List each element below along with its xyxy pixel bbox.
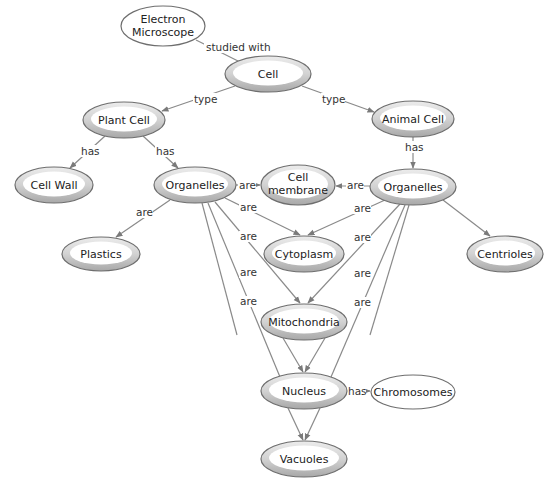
node-animal-cell[interactable]: Animal Cell (372, 101, 454, 137)
edge-mito-nucleus-l (283, 338, 303, 372)
node-mitochondria[interactable]: Mitochondria (261, 304, 347, 340)
label-are-mito-plant: are (240, 230, 257, 242)
label-are-membrane-animal: are (347, 179, 364, 191)
node-label: Cell (258, 68, 279, 81)
node-cell-membrane[interactable]: Cell membrane (261, 165, 335, 205)
edge-orga-centrioles (443, 200, 490, 236)
node-plastics[interactable]: Plastics (62, 237, 140, 271)
label-studied-with: studied with (206, 41, 271, 53)
node-cell-wall[interactable]: Cell Wall (15, 167, 93, 203)
edge-orga-cytoplasm (308, 200, 385, 235)
node-label: Organelles (165, 179, 224, 192)
node-label: Cell Wall (30, 179, 77, 192)
label-has-chromosomes: has (348, 385, 367, 397)
label-type-animal: type (322, 93, 345, 105)
label-are-mito-animal: are (354, 231, 371, 243)
node-label: membrane (268, 184, 328, 197)
edge-mito-nucleus-r (305, 338, 325, 372)
concept-map: studied with type type has has has are a… (0, 0, 555, 485)
label-has-organelles-plant: has (156, 145, 175, 157)
label-has-organelles-animal: has (405, 141, 424, 153)
label-are-membrane-plant: are (239, 179, 256, 191)
label-are-cytoplasm-plant: are (240, 201, 257, 213)
node-vacuoles[interactable]: Vacuoles (261, 441, 347, 477)
edge-orga-vacuoles (370, 205, 409, 335)
node-plant-cell[interactable]: Plant Cell (83, 102, 165, 138)
nodes: Electron Microscope Cell Plant Cell Anim… (15, 6, 543, 477)
node-chromosomes[interactable]: Chromosomes (371, 375, 455, 409)
node-label: Centrioles (477, 248, 533, 261)
node-label: Animal Cell (382, 113, 444, 126)
edge-labels: studied with type type has has has are a… (80, 40, 425, 397)
node-organelles-animal[interactable]: Organelles (370, 169, 456, 205)
node-centrioles[interactable]: Centrioles (467, 236, 543, 272)
node-label: Mitochondria (268, 316, 340, 329)
label-are-vacuoles-animal: are (354, 296, 371, 308)
label-has-cellwall: has (81, 145, 100, 157)
node-label: Chromosomes (374, 386, 453, 399)
node-label: Plastics (80, 248, 122, 261)
label-are-nucleus-animal: are (354, 267, 371, 279)
node-electron-microscope[interactable]: Electron Microscope (121, 6, 205, 46)
node-cell[interactable]: Cell (225, 56, 311, 92)
label-are-cytoplasm-animal: are (354, 202, 371, 214)
node-nucleus[interactable]: Nucleus (261, 373, 347, 409)
label-are-vacuoles-plant: are (240, 295, 257, 307)
node-label: Organelles (383, 181, 442, 194)
node-label: Plant Cell (98, 114, 150, 127)
node-label: Cytoplasm (275, 248, 333, 261)
node-label: Cell (288, 171, 309, 184)
label-type-plant: type (194, 93, 217, 105)
node-label: Nucleus (282, 385, 326, 398)
edge-nucleus-vacuoles-l (288, 408, 303, 440)
label-are-nucleus-plant: are (240, 266, 257, 278)
node-organelles-plant[interactable]: Organelles (154, 167, 236, 203)
edge-nucleus-vacuoles-r (305, 408, 320, 440)
node-cytoplasm[interactable]: Cytoplasm (264, 236, 344, 272)
node-label: Microscope (132, 26, 194, 39)
label-are-plastics: are (136, 206, 153, 218)
node-label: Electron (140, 13, 185, 26)
node-label: Vacuoles (280, 453, 329, 466)
